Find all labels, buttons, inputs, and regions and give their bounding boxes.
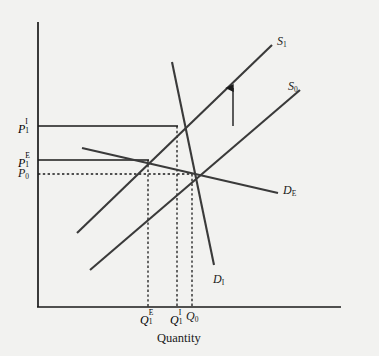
- chart-canvas: [0, 0, 379, 356]
- y-tick-p1e-scripts: E1: [25, 155, 30, 167]
- y-tick-p1i-sup: I: [25, 117, 28, 126]
- x-tick-label-q0: Q0: [186, 310, 198, 322]
- curve-de: [82, 148, 278, 193]
- curves: [77, 45, 300, 270]
- x-tick-label-q1i: QI1: [170, 310, 184, 328]
- y-tick-label-p0: P0: [18, 167, 29, 179]
- curve-label-s0-sub: 0: [294, 85, 298, 94]
- y-tick-p1i-sub: 1: [25, 126, 29, 135]
- x-tick-q1i-sub: 1: [179, 317, 183, 326]
- curve-s0: [90, 90, 300, 270]
- curve-label-de-base: D: [283, 183, 292, 197]
- supply-demand-figure: PI1 PE1 P0 QE1 QI1 Q0 S1 S0 DE DI Quanti…: [0, 0, 379, 356]
- curve-label-de: DE: [283, 184, 296, 196]
- curve-label-s1: S1: [277, 35, 287, 47]
- x-tick-q0-sub: 0: [195, 315, 199, 324]
- y-tick-p1i-scripts: I1: [25, 121, 30, 133]
- curve-label-di-base: D: [213, 272, 222, 286]
- y-tick-p1e-sup: E: [25, 151, 30, 160]
- curve-label-di-sub: I: [222, 278, 225, 287]
- axes: [37, 22, 341, 307]
- curve-label-s1-sub: 1: [283, 40, 287, 49]
- x-tick-q0-base: Q: [186, 309, 195, 323]
- curve-label-s0: S0: [288, 80, 298, 92]
- y-tick-p0-sub: 0: [25, 172, 29, 181]
- x-tick-q1e-sup: E: [149, 308, 154, 317]
- x-tick-label-q1e: QE1: [140, 310, 154, 328]
- x-tick-q1i-base: Q: [170, 313, 179, 327]
- curve-label-de-sub: E: [292, 189, 297, 198]
- y-tick-label-p1i: PI1: [18, 119, 30, 137]
- x-tick-q1e-scripts: E1: [149, 312, 154, 324]
- x-tick-q1i-sup: I: [179, 308, 182, 317]
- curve-label-di: DI: [213, 273, 224, 285]
- x-axis-title: Quantity: [157, 331, 201, 346]
- x-tick-q1e-base: Q: [140, 313, 149, 327]
- curve-di: [172, 62, 214, 265]
- x-tick-q1e-sub: 1: [149, 317, 153, 326]
- y-tick-p1i-base: P: [18, 122, 25, 136]
- x-tick-q1i-scripts: I1: [179, 312, 184, 324]
- guide-lines: [38, 126, 192, 307]
